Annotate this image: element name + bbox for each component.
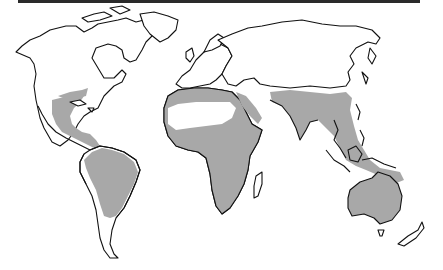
asia [218, 20, 380, 88]
new-zealand [398, 222, 424, 246]
south-asia-shaded [236, 90, 404, 184]
north-america [16, 6, 178, 146]
south-america [80, 146, 140, 258]
australia [348, 172, 424, 246]
world-map [0, 0, 443, 270]
tasmania [378, 230, 384, 236]
madagascar [254, 172, 262, 198]
